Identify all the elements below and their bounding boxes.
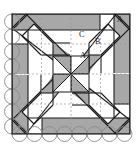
piece-label-b: B (95, 38, 100, 46)
block-field (12, 14, 130, 134)
piece-label-a-inner: A (80, 52, 86, 60)
piece-label-c: C (79, 31, 84, 39)
piece-label-a-corner: A (117, 16, 123, 24)
quilt-block-diagram: A C B A (0, 0, 138, 146)
